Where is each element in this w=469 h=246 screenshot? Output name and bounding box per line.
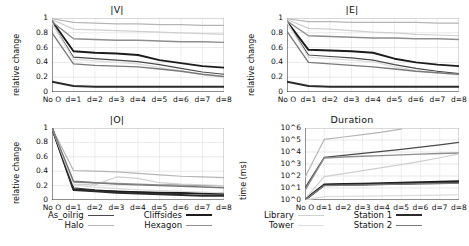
legend-left: As_oilrig Cliffsides Halo Hexagon	[46, 210, 214, 230]
legend-label-halo: Halo	[46, 220, 86, 230]
y-tick-label: 0.8	[0, 137, 48, 146]
legend-swatch-halo	[86, 220, 116, 230]
legend-spacer	[326, 210, 352, 220]
y-tick-label: 0.6	[235, 43, 283, 52]
y-tick-label: 0.6	[0, 152, 48, 161]
y-tick-label: 10^5	[235, 135, 301, 144]
legend-row: Halo Hexagon	[46, 220, 214, 230]
x-tick-label: d=4	[361, 95, 385, 104]
y-tick-label: 10^6	[235, 123, 301, 132]
legend-row: As_oilrig Cliffsides	[46, 210, 214, 220]
legend-row: Library Station 1	[262, 210, 424, 220]
chart-panel-o: |O| relative change 00.20.40.60.81 No Od…	[0, 112, 234, 208]
chart-panel-v: |V| relative change 00.20.40.60.81 No Od…	[0, 2, 234, 110]
plot-area-duration	[305, 128, 459, 200]
legend-swatch-as-oilrig	[86, 210, 116, 220]
x-tick-label: d=3	[105, 95, 129, 104]
x-tick-label: d=8	[447, 203, 469, 212]
legend-label-library: Library	[262, 210, 296, 220]
legend-label-tower: Tower	[262, 220, 296, 230]
legend-swatch-hexagon	[184, 220, 214, 230]
legend-swatch-station-2	[394, 220, 424, 230]
y-tick-label: 1	[0, 123, 48, 132]
x-tick-label: d=4	[126, 95, 150, 104]
chart-panel-e: |E| relative change 00.20.40.60.81 No Od…	[235, 2, 469, 110]
x-tick-label: d=1	[62, 95, 86, 104]
legend-swatch-library	[296, 210, 326, 220]
legend-label-hexagon: Hexagon	[142, 220, 184, 230]
x-tick-label: d=7	[191, 95, 215, 104]
x-tick-label: No O	[40, 95, 64, 104]
legend-label-station-1: Station 1	[352, 210, 394, 220]
series-line	[305, 129, 401, 177]
plot-area-v	[52, 18, 224, 92]
legend-label-cliffsides: Cliffsides	[142, 210, 184, 220]
y-tick-label: 1	[0, 13, 48, 22]
y-tick-label: 1	[235, 13, 283, 22]
y-tick-label: 10^3	[235, 159, 301, 168]
legend-right-table: Library Station 1 Tower Station 2	[262, 210, 424, 230]
y-tick-label: 0.2	[235, 72, 283, 81]
legend-spacer	[116, 210, 142, 220]
x-tick-label: d=5	[148, 95, 172, 104]
legend-swatch-cliffsides	[184, 210, 214, 220]
x-tick-label: d=8	[212, 95, 236, 104]
y-tick-label: 10^1	[235, 183, 301, 192]
x-tick-label: d=5	[383, 95, 407, 104]
plot-area-o	[52, 128, 224, 200]
y-tick-label: 0.4	[235, 57, 283, 66]
legend-spacer	[116, 220, 142, 230]
legend-right: Library Station 1 Tower Station 2	[262, 210, 424, 230]
x-tick-label: No O	[275, 95, 299, 104]
legend-left-table: As_oilrig Cliffsides Halo Hexagon	[46, 210, 214, 230]
figure-root: |V| relative change 00.20.40.60.81 No Od…	[0, 0, 469, 246]
x-tick-label: d=6	[169, 95, 193, 104]
y-tick-label: 0.2	[0, 181, 48, 190]
legend-label-station-2: Station 2	[352, 220, 394, 230]
y-tick-label: 0.8	[235, 28, 283, 37]
legend-row: Tower Station 2	[262, 220, 424, 230]
chart-panel-duration: Duration time (ms) 10^010^110^210^310^41…	[235, 112, 469, 208]
y-tick-label: 0.8	[0, 28, 48, 37]
x-tick-label: d=2	[318, 95, 342, 104]
plot-area-e	[287, 18, 459, 92]
x-tick-label: d=1	[297, 95, 321, 104]
y-tick-label: 0.6	[0, 43, 48, 52]
y-tick-label: 0.2	[0, 72, 48, 81]
y-tick-label: 0.4	[0, 166, 48, 175]
y-tick-label: 10^0	[235, 195, 301, 204]
x-tick-label: d=8	[212, 203, 236, 212]
legend-label-as-oilrig: As_oilrig	[46, 210, 86, 220]
y-tick-label: 10^2	[235, 171, 301, 180]
x-tick-label: d=8	[447, 95, 469, 104]
y-tick-label: 0.4	[0, 57, 48, 66]
y-tick-label: 10^4	[235, 147, 301, 156]
x-tick-label: d=2	[83, 95, 107, 104]
legend-swatch-station-1	[394, 210, 424, 220]
x-tick-label: d=7	[426, 95, 450, 104]
legend-swatch-tower	[296, 220, 326, 230]
x-tick-label: d=6	[404, 95, 428, 104]
legend-spacer	[326, 220, 352, 230]
x-tick-label: d=3	[340, 95, 364, 104]
